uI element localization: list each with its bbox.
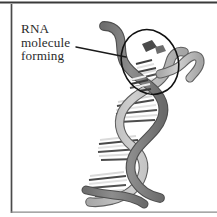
transcription-figure: RNA molecule forming	[0, 0, 217, 217]
callout-line-2: molecule	[21, 36, 93, 50]
callout-label: RNA molecule forming	[21, 22, 93, 63]
callout-line-1: RNA	[21, 22, 93, 36]
callout-line-3: forming	[21, 49, 93, 63]
